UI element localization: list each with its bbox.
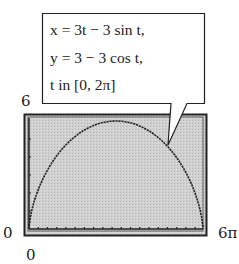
y-min-label: 0 (26, 248, 36, 263)
screen-frame (25, 115, 207, 236)
y-max-label: 6 (21, 94, 31, 109)
equation-x: x = 3t − 3 sin t, (50, 22, 145, 38)
equation-y: y = 3 − 3 cos t, (50, 50, 143, 66)
parameter-range: t in [0, 2π] (50, 77, 116, 93)
x-min-label: 0 (3, 226, 13, 241)
x-max-label: 6π (218, 226, 237, 241)
calculator-graph (0, 0, 239, 264)
